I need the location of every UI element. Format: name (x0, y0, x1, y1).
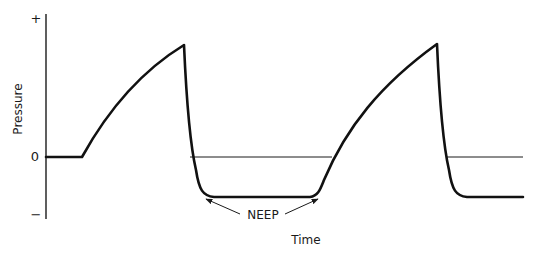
neep-arrow-left (206, 199, 240, 214)
y-tick-plus: + (31, 11, 42, 26)
pressure-waveform (46, 44, 523, 197)
y-axis-label: Pressure (11, 83, 25, 134)
y-tick-zero: 0 (31, 149, 39, 164)
y-tick-minus: − (31, 207, 42, 222)
neep-label: NEEP (247, 208, 278, 222)
neep-arrow-right (285, 199, 318, 214)
x-axis-label: Time (290, 233, 320, 247)
neep-pressure-chart: + 0 − Pressure NEEP Time (0, 0, 535, 256)
